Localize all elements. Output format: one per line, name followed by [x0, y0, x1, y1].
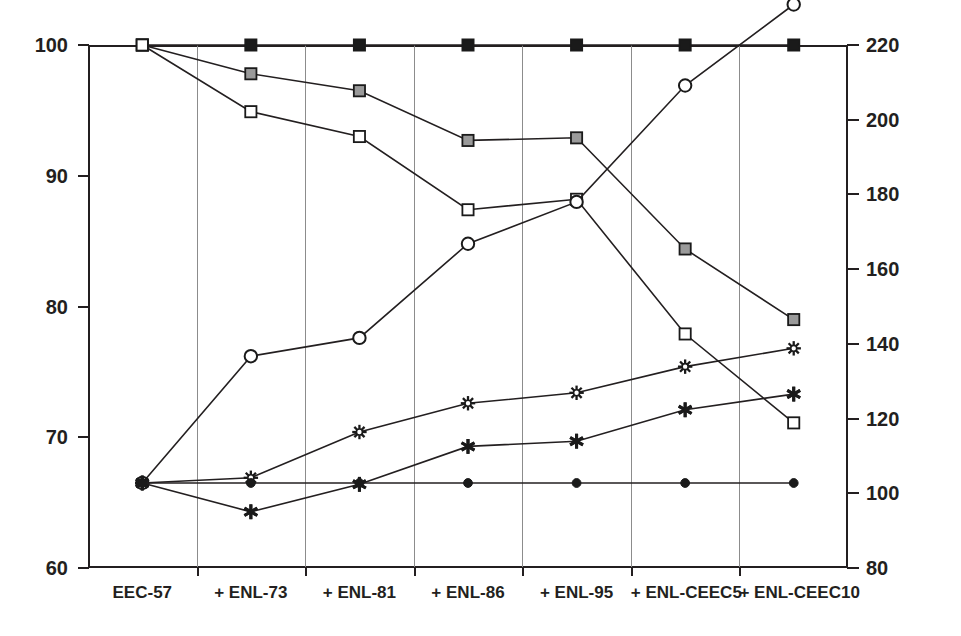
series-line	[142, 45, 793, 423]
series-filled-circle-series	[138, 479, 798, 488]
series-open-square-series	[137, 39, 800, 428]
series-line	[142, 45, 793, 320]
series-open-circle-series	[136, 0, 800, 489]
series-starburst-series	[135, 341, 801, 490]
chart-figure: 60708090100 80100120140160180200220 EEC-…	[0, 0, 961, 636]
series-gray-square-series	[137, 39, 800, 325]
data-series-layer	[0, 0, 961, 636]
series-filled-square-series	[137, 39, 800, 50]
